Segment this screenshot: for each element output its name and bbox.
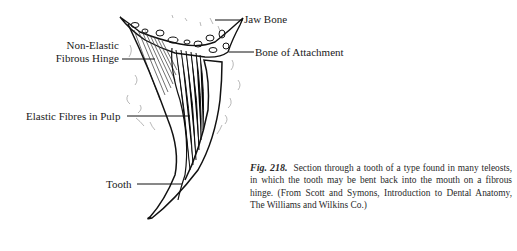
figure-number: Fig. 218. <box>250 162 288 173</box>
figure-218: Jaw Bone Bone of Attachment Non-Elastic … <box>0 0 517 251</box>
label-fibrous-hinge: Fibrous Hinge <box>30 52 119 64</box>
tooth-section-drawing <box>0 0 517 251</box>
label-non-elastic: Non-Elastic <box>30 39 119 51</box>
label-elastic-fibres: Elastic Fibres in Pulp <box>26 110 120 122</box>
label-bone-of-attachment: Bone of Attachment <box>255 46 344 58</box>
fibrous-hinge <box>134 30 177 100</box>
figure-caption: Fig. 218. Section through a tooth of a t… <box>250 162 512 211</box>
elastic-fibres <box>176 50 204 170</box>
label-tooth: Tooth <box>106 178 132 190</box>
label-jaw-bone: Jaw Bone <box>244 13 287 25</box>
caption-text: Section through a tooth of a type found … <box>250 163 512 210</box>
